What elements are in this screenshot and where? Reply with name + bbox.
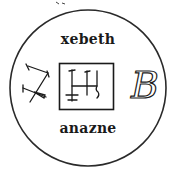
top-fragment-mark — [56, 2, 65, 4]
seal-diagram: xebeth B anazne — [0, 0, 177, 174]
top-inscription: xebeth — [48, 31, 128, 47]
right-glyph-b: B — [131, 66, 159, 104]
center-sigil-icon — [66, 70, 99, 101]
left-sigil-icon — [23, 64, 49, 102]
bottom-inscription: anazne — [48, 120, 128, 136]
